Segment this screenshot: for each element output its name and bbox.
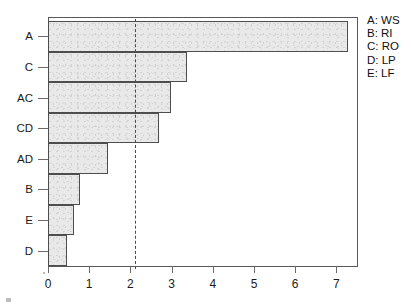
- bar-C: [48, 52, 187, 83]
- x-tick: [336, 267, 337, 273]
- y-tick: [38, 67, 48, 68]
- y-tick-label-E: E: [0, 214, 33, 226]
- bars-layer: [48, 21, 358, 266]
- bar-AC: [48, 82, 171, 113]
- y-tick: [38, 128, 48, 129]
- bar-B: [48, 174, 80, 205]
- y-tick-label-AC: AC: [0, 92, 33, 104]
- legend: A: WS B: RI C: RO D: LP E: LF: [367, 14, 411, 80]
- reference-line: [135, 19, 136, 269]
- y-tick: [38, 220, 48, 221]
- y-tick-label-AD: AD: [0, 153, 33, 165]
- scan-speck: [6, 298, 11, 302]
- x-tick: [89, 267, 90, 273]
- x-tick-label-2: 2: [118, 277, 142, 291]
- y-tick-label-B: B: [0, 183, 33, 195]
- y-tick: [38, 251, 48, 252]
- y-tick-label-D: D: [0, 245, 33, 257]
- legend-item-C: C: RO: [367, 40, 411, 53]
- x-tick-label-0: 0: [36, 277, 60, 291]
- bar-CD: [48, 113, 159, 144]
- x-tick-label-6: 6: [283, 277, 307, 291]
- x-tick-label-3: 3: [160, 277, 184, 291]
- bar-E: [48, 205, 74, 236]
- y-tick: [38, 189, 48, 190]
- pareto-chart: A C AC CD AD B E D 0 1 2 3 4 5 6 7 A: WS…: [0, 0, 411, 304]
- x-tick: [213, 267, 214, 273]
- x-tick-label-1: 1: [77, 277, 101, 291]
- legend-item-B: B: RI: [367, 27, 411, 40]
- bar-AD: [48, 143, 108, 174]
- legend-item-A: A: WS: [367, 14, 411, 27]
- legend-item-D: D: LP: [367, 54, 411, 67]
- scan-speck: [43, 272, 45, 274]
- y-tick: [38, 159, 48, 160]
- bar-D: [48, 235, 67, 266]
- x-tick: [48, 267, 49, 273]
- bar-A: [48, 21, 348, 52]
- x-tick-label-4: 4: [201, 277, 225, 291]
- x-tick: [295, 267, 296, 273]
- y-tick-label-C: C: [0, 61, 33, 73]
- y-tick: [38, 98, 48, 99]
- x-tick: [130, 267, 131, 273]
- x-tick-label-5: 5: [242, 277, 266, 291]
- y-tick-label-CD: CD: [0, 122, 33, 134]
- x-tick-label-7: 7: [324, 277, 348, 291]
- y-tick-label-A: A: [0, 30, 33, 42]
- x-tick: [172, 267, 173, 273]
- x-tick: [254, 267, 255, 273]
- legend-item-E: E: LF: [367, 67, 411, 80]
- y-tick: [38, 36, 48, 37]
